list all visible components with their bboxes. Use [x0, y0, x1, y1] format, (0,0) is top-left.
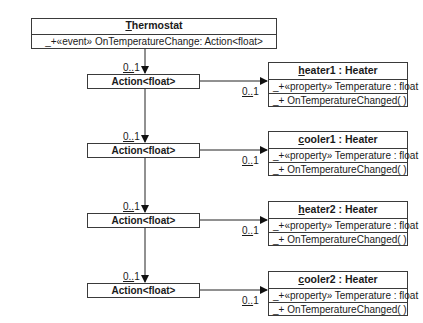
object-heater2[interactable]: heater2 : Heater _+«property» Temperatur… — [268, 201, 408, 246]
multiplicity-out-2: 0..1 — [242, 155, 259, 166]
object-property: _+«property» Temperature : float — [269, 79, 407, 93]
thermostat-class[interactable]: Thermostat _+«event» OnTemperatureChange… — [31, 18, 277, 49]
object-cooler1[interactable]: cooler1 : Heater _+«property» Temperatur… — [268, 131, 408, 176]
object-name: cooler2 : Heater — [269, 272, 407, 288]
object-heater1[interactable]: heater1 : Heater _+«property» Temperatur… — [268, 62, 408, 107]
object-property: _+«property» Temperature : float — [269, 148, 407, 162]
thermostat-name: Thermostat — [32, 19, 276, 34]
object-method: _+ OnTemperatureChanged( ) — [269, 232, 407, 246]
multiplicity-out-3: 0..1 — [242, 225, 259, 236]
action-box-2[interactable]: Action<float> — [87, 143, 200, 158]
multiplicity-in-1: 0..1 — [123, 62, 140, 73]
object-property: _+«property» Temperature : float — [269, 288, 407, 302]
multiplicity-out-4: 0..1 — [242, 295, 259, 306]
object-method: _+ OnTemperatureChanged( ) — [269, 162, 407, 176]
object-method: _+ OnTemperatureChanged( ) — [269, 302, 407, 316]
object-property: _+«property» Temperature : float — [269, 218, 407, 232]
action-box-3[interactable]: Action<float> — [87, 213, 200, 228]
action-box-4[interactable]: Action<float> — [87, 283, 200, 298]
action-box-1[interactable]: Action<float> — [87, 74, 200, 89]
object-name: heater2 : Heater — [269, 202, 407, 218]
multiplicity-in-2: 0..1 — [123, 131, 140, 142]
multiplicity-out-1: 0..1 — [242, 86, 259, 97]
object-method: _+ OnTemperatureChanged( ) — [269, 93, 407, 107]
multiplicity-in-4: 0..1 — [123, 271, 140, 282]
thermostat-event-attribute: _+«event» OnTemperatureChange: Action<fl… — [32, 34, 276, 48]
object-name: cooler1 : Heater — [269, 132, 407, 148]
multiplicity-in-3: 0..1 — [123, 201, 140, 212]
object-name: heater1 : Heater — [269, 63, 407, 79]
object-cooler2[interactable]: cooler2 : Heater _+«property» Temperatur… — [268, 271, 408, 316]
